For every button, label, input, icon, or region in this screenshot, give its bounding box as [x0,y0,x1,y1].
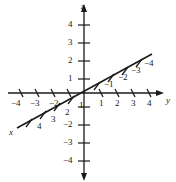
z-tick-label-2: 2 [68,56,73,65]
x-axis-label: x [9,128,13,137]
axes-svg [0,0,176,182]
z-tick-label-1: 1 [68,74,73,83]
z-tick-label-neg4: −4 [63,156,73,165]
x-tick-label-neg2: −2 [118,73,128,82]
x-tick-label-1: 1 [79,101,84,110]
y-tick-label-3: 3 [131,99,136,108]
y-tick-label-1: 1 [99,99,104,108]
z-tick-label-neg2: −2 [63,120,73,129]
y-tick-label-2: 2 [115,99,120,108]
z-tick-label-4: 4 [68,20,73,29]
y-tick-label-neg4: −4 [11,99,21,108]
y-tick-label-4: 4 [147,99,152,108]
x-tick-label-neg1: −1 [104,80,114,89]
x-tick-label-4: 4 [37,122,42,131]
z-axis-label: z [81,2,85,11]
coordinate-axes-figure: z y x 4 3 2 1 −2 −3 −4 1 2 3 4 −2 −3 −4 … [0,0,176,182]
z-tick-label-neg3: −3 [63,138,73,147]
x-tick-label-neg4: −4 [144,59,154,68]
x-tick-label-neg3: −3 [131,66,141,75]
x-tick-label-3: 3 [51,115,56,124]
z-tick-label-3: 3 [68,38,73,47]
y-tick-label-neg3: −3 [30,99,40,108]
y-axis-arrow-right [156,90,164,96]
z-axis-arrow-down [81,173,87,181]
x-tick-label-2: 2 [65,108,70,117]
y-axis-label: y [166,96,170,105]
y-tick-label-neg2: −2 [49,99,59,108]
